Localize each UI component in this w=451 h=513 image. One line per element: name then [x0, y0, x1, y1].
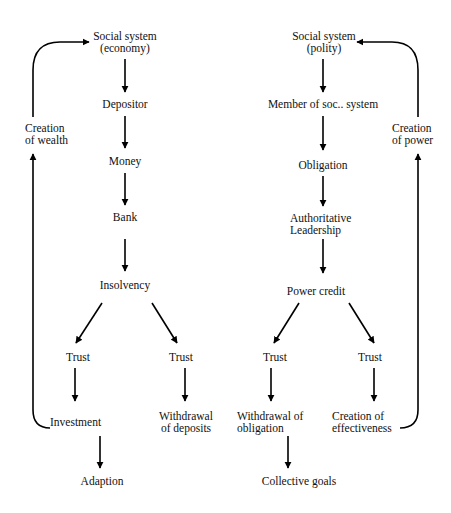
arrow-insolvency-trust-right [152, 303, 177, 343]
node-trust-polity-right: Trust [358, 351, 382, 363]
node-trust-economy-left: Trust [66, 351, 90, 363]
node-social-system-polity: Social system (polity) [292, 30, 356, 54]
node-withdrawal-of-deposits: Withdrawal of deposits [159, 410, 213, 434]
node-creation-of-power: Creation of power [392, 122, 433, 146]
node-creation-of-effectiveness: Creation of effectiveness [332, 410, 392, 434]
node-investment: Investment [50, 416, 101, 428]
arrow-powercredit-trust-left [274, 303, 299, 343]
arrow-powercredit-trust-right [349, 303, 374, 343]
node-depositor: Depositor [102, 98, 147, 110]
node-obligation: Obligation [298, 159, 347, 171]
node-trust-polity-left: Trust [263, 351, 287, 363]
arrow-loop-wealth-to-economy [33, 42, 89, 117]
node-withdrawal-of-obligation: Withdrawal of obligation [237, 410, 303, 434]
node-authoritative-leadership: Authoritative Leadership [290, 212, 351, 236]
node-member-of-social-system: Member of soc.. system [268, 98, 378, 110]
node-bank: Bank [113, 211, 137, 223]
arrow-loop-effectiveness-to-power [400, 154, 418, 428]
arrow-loop-wealth-to-investment [33, 154, 50, 428]
arrow-insolvency-trust-left [76, 303, 102, 343]
node-insolvency: Insolvency [100, 279, 150, 291]
node-creation-of-wealth: Creation of wealth [25, 122, 68, 146]
flow-diagram: Social system (economy) Depositor Money … [0, 0, 451, 513]
node-collective-goals: Collective goals [262, 475, 336, 487]
node-power-credit: Power credit [287, 285, 345, 297]
diagram-arrows [0, 0, 451, 513]
node-social-system-economy: Social system (economy) [93, 30, 157, 54]
node-trust-economy-right: Trust [169, 351, 193, 363]
node-adaption: Adaption [81, 475, 124, 487]
node-money: Money [109, 155, 142, 167]
